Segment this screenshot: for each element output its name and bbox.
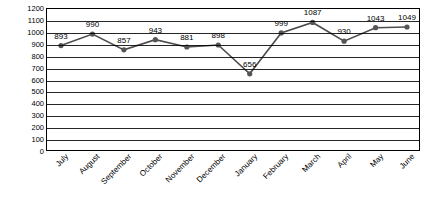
y-tick-label: 1000 <box>4 27 44 36</box>
y-tick-label: 400 <box>4 99 44 108</box>
data-point-label: 857 <box>117 36 130 45</box>
x-axis-tick-labels: JulyAugustSeptemberOctoberNovemberDecemb… <box>46 152 420 204</box>
x-tick-label-wrap: September <box>99 152 133 186</box>
y-tick-label: 300 <box>4 111 44 120</box>
x-tick-label: January <box>233 152 259 178</box>
x-tick-label-wrap: February <box>262 152 291 181</box>
y-tick-label: 100 <box>4 135 44 144</box>
plot-area: 893990857943881898656999108793010431049 <box>46 8 420 151</box>
gridline <box>47 104 419 105</box>
data-point-label: 656 <box>243 60 256 69</box>
gridline <box>47 116 419 117</box>
gridline <box>47 140 419 141</box>
x-tick-label: September <box>99 152 133 186</box>
x-tick-label: June <box>398 152 417 171</box>
gridline <box>47 21 419 22</box>
data-point-marker <box>341 39 346 44</box>
x-tick-label-wrap: December <box>195 152 227 184</box>
y-tick-label: 0 <box>4 147 44 156</box>
data-point-label: 990 <box>86 20 99 29</box>
y-tick-label: 200 <box>4 123 44 132</box>
x-tick-label: August <box>78 152 102 176</box>
gridline <box>47 81 419 82</box>
x-tick-label-wrap: July <box>54 152 70 168</box>
data-point-label: 898 <box>212 31 225 40</box>
x-tick-label: May <box>368 152 385 169</box>
y-tick-label: 700 <box>4 63 44 72</box>
gridline <box>47 92 419 93</box>
data-point-marker <box>153 37 158 42</box>
x-tick-label-wrap: March <box>300 152 322 174</box>
gridline <box>47 57 419 58</box>
x-tick-label-wrap: January <box>233 152 259 178</box>
y-tick-label: 500 <box>4 87 44 96</box>
data-point-label: 1043 <box>367 14 385 23</box>
data-point-label: 930 <box>337 27 350 36</box>
gridline <box>47 69 419 70</box>
data-point-label: 999 <box>274 19 287 28</box>
data-point-marker <box>121 47 126 52</box>
x-tick-label-wrap: August <box>78 152 102 176</box>
gridline <box>47 45 419 46</box>
data-point-marker <box>247 71 252 76</box>
x-tick-label: October <box>138 152 164 178</box>
x-tick-label-wrap: April <box>336 152 354 170</box>
data-point-label: 1049 <box>398 13 416 22</box>
line-chart: Total Number of Visits 01002003004005006… <box>0 0 441 205</box>
data-point-label: 1087 <box>304 8 322 17</box>
x-tick-label: November <box>164 152 196 184</box>
gridline <box>47 33 419 34</box>
x-tick-label-wrap: October <box>138 152 164 178</box>
x-tick-label: July <box>54 152 70 168</box>
x-tick-label: March <box>300 152 322 174</box>
x-tick-label-wrap: May <box>368 152 385 169</box>
x-tick-label-wrap: November <box>164 152 196 184</box>
series-polyline <box>61 22 407 73</box>
data-point-label: 893 <box>54 32 67 41</box>
x-tick-label: April <box>336 152 354 170</box>
x-tick-label-wrap: June <box>398 152 417 171</box>
x-tick-label: December <box>195 152 227 184</box>
data-point-label: 881 <box>180 33 193 42</box>
y-tick-label: 1200 <box>4 4 44 13</box>
y-tick-label: 800 <box>4 51 44 60</box>
data-point-label: 943 <box>149 26 162 35</box>
y-axis-tick-labels: 0100200300400500600700800900100011001200 <box>0 8 44 151</box>
data-point-marker <box>373 25 378 30</box>
gridline <box>47 128 419 129</box>
y-tick-label: 900 <box>4 39 44 48</box>
data-point-marker <box>404 24 409 29</box>
y-tick-label: 600 <box>4 75 44 84</box>
y-tick-label: 1100 <box>4 15 44 24</box>
x-tick-label: February <box>262 152 291 181</box>
